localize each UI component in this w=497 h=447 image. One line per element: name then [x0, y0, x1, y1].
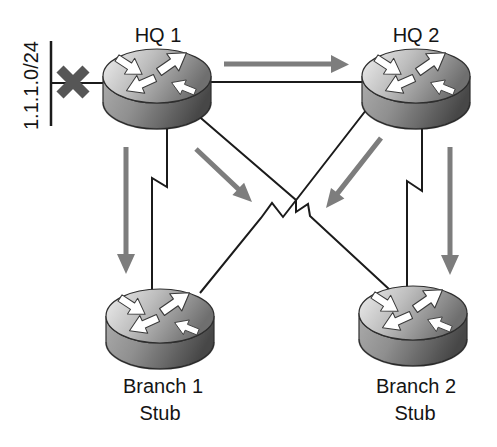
link-hq1-branch1: [152, 110, 167, 295]
network-prefix-label: 1.1.1.0/24: [20, 41, 42, 130]
routers: [103, 44, 470, 369]
node-label-hq2: HQ 2: [393, 24, 440, 46]
link-hq2-branch1: [200, 105, 370, 293]
node-sublabel-branch2: Stub: [394, 402, 435, 424]
flow-arrow-hq2-to-branch2: [441, 147, 459, 275]
router-hq1-icon: [103, 44, 211, 129]
router-branch1-icon: [106, 284, 214, 369]
flow-arrow-hq1-to-hq2: [224, 55, 349, 73]
node-sublabel-branch1: Stub: [139, 402, 180, 424]
stub-network: [51, 41, 108, 126]
flow-arrow-hq2-to-branch1: [326, 137, 383, 209]
node-label-hq1: HQ 1: [135, 24, 182, 46]
router-hq2-icon: [362, 44, 470, 129]
network-diagram-canvas: HQ 1 HQ 2 Branch 1 Stub Branch 2 Stub 1.…: [0, 0, 497, 447]
flow-arrow-hq1-to-branch1: [117, 147, 135, 274]
node-label-branch2: Branch 2: [376, 375, 456, 397]
link-hq2-branch2: [407, 110, 422, 292]
network-topology-diagram: HQ 1 HQ 2 Branch 1 Stub Branch 2 Stub 1.…: [0, 0, 497, 447]
router-branch2-icon: [359, 281, 467, 366]
node-label-branch1: Branch 1: [123, 375, 203, 397]
